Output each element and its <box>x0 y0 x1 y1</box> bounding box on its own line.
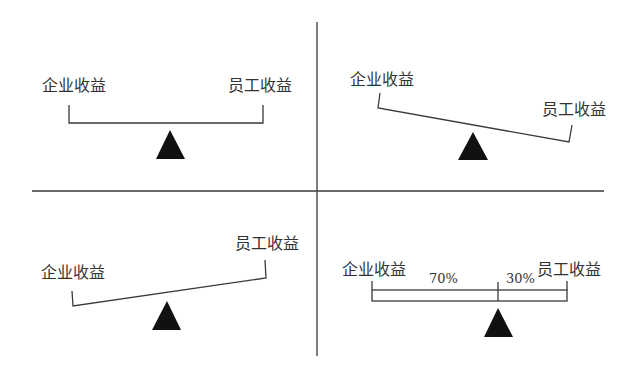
beam <box>69 105 263 123</box>
split-bar <box>372 290 567 301</box>
quadrant-top-left-scale <box>69 105 263 159</box>
fulcrum-triangle <box>152 301 181 330</box>
q4-enterprise-label: 企业收益 <box>342 261 406 279</box>
q3-employee-label: 员工收益 <box>235 235 299 253</box>
q4-employee-label: 员工收益 <box>537 261 601 279</box>
q2-enterprise-label: 企业收益 <box>350 71 414 89</box>
q4-right-share: 30% <box>506 272 535 286</box>
fulcrum-triangle <box>484 308 513 337</box>
fulcrum-triangle <box>458 132 488 160</box>
q1-employee-label: 员工收益 <box>228 77 292 95</box>
quadrant-bottom-right-scale <box>372 281 567 337</box>
q2-employee-label: 员工收益 <box>542 101 606 119</box>
q1-enterprise-label: 企业收益 <box>42 77 106 95</box>
q3-enterprise-label: 企业收益 <box>41 264 105 282</box>
fulcrum-triangle <box>156 130 185 159</box>
diagram-canvas <box>0 0 637 383</box>
q4-left-share: 70% <box>429 272 458 286</box>
